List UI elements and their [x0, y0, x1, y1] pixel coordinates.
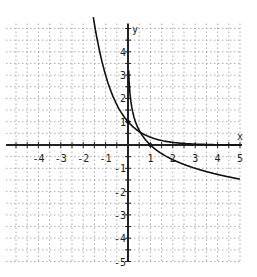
x-tick-label: 3 — [192, 153, 198, 164]
x-tick-label: -1 — [100, 153, 112, 164]
y-tick-label: 4 — [120, 47, 126, 58]
y-tick-label: -5 — [114, 257, 126, 268]
y-tick-label: 3 — [120, 70, 126, 81]
grid — [6, 24, 240, 262]
x-tick-label: -3 — [55, 153, 67, 164]
y-tick-label: -3 — [114, 210, 126, 221]
axes — [6, 24, 242, 262]
exponential-curve — [93, 17, 240, 145]
y-tick-label: -1 — [114, 163, 126, 174]
function-graph: -4-3-2-1123454321-1-2-3-4-5xy — [0, 0, 257, 277]
x-tick-label: 1 — [147, 153, 153, 164]
point-0-1 — [126, 120, 130, 124]
x-tick-label: 5 — [237, 153, 243, 164]
y-tick-label: 2 — [120, 93, 126, 104]
y-tick-label: -4 — [114, 233, 126, 244]
y-tick-label: -2 — [114, 187, 126, 198]
x-axis-label: x — [237, 131, 243, 142]
y-axis-label: y — [132, 24, 138, 35]
x-tick-label: 4 — [215, 153, 221, 164]
x-tick-label: -2 — [77, 153, 89, 164]
point-1-0 — [148, 143, 152, 147]
x-tick-label: -4 — [32, 153, 44, 164]
